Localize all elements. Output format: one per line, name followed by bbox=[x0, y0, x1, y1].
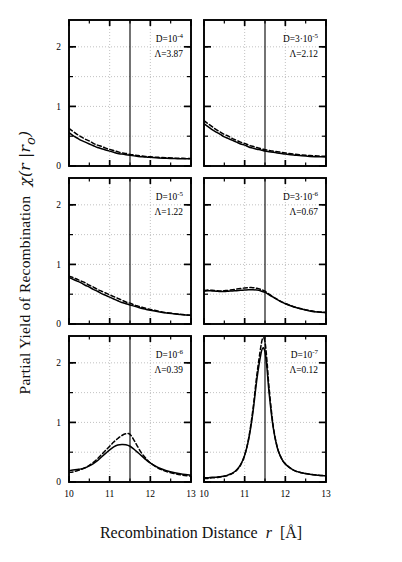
panel-annotation-lambda: Λ=0.67 bbox=[290, 207, 319, 217]
y-axis-label-symbol: χ(r |ro) bbox=[16, 131, 34, 192]
panel-1-0: 012D=10-5Λ=1.22 bbox=[56, 178, 191, 329]
x-tick-label: 12 bbox=[281, 489, 291, 499]
panel-annotation-D: D=10-5 bbox=[156, 190, 184, 202]
y-tick-label: 2 bbox=[56, 358, 61, 368]
x-axis-label-var: r bbox=[266, 524, 272, 541]
y-axis-label: Partial Yield of Recombination χ(r |ro) bbox=[16, 53, 37, 473]
y-tick-label: 2 bbox=[56, 200, 61, 210]
panel-2-0: 01210111213D=10-6Λ=0.39 bbox=[56, 336, 196, 499]
panel-annotation-lambda: Λ=3.87 bbox=[155, 49, 184, 59]
panel-1-1: D=3·10-6Λ=0.67 bbox=[204, 178, 326, 324]
x-tick-label: 13 bbox=[321, 489, 331, 499]
y-tick-label: 1 bbox=[56, 260, 61, 270]
x-tick-label: 10 bbox=[64, 489, 74, 499]
panel-annotation-lambda: Λ=0.12 bbox=[290, 365, 319, 375]
x-tick-label: 11 bbox=[105, 489, 114, 499]
panel-0-1: D=3·10-5Λ=2.12 bbox=[204, 20, 326, 166]
x-axis-label-text: Recombination Distance bbox=[100, 524, 258, 541]
y-tick-label: 0 bbox=[56, 161, 61, 171]
y-tick-label: 0 bbox=[56, 477, 61, 487]
panel-0-0: 012D=10-4Λ=3.87 bbox=[56, 20, 191, 171]
x-axis-label-unit: [Å] bbox=[280, 524, 302, 541]
panel-annotation-D: D=3·10-6 bbox=[283, 190, 319, 202]
panel-annotation-D: D=10-7 bbox=[291, 348, 319, 360]
x-axis-label: Recombination Distance r [Å] bbox=[0, 524, 402, 542]
x-tick-label: 10 bbox=[199, 489, 209, 499]
plot-grid: 012D=10-4Λ=3.87D=3·10-5Λ=2.12012D=10-5Λ=… bbox=[0, 0, 402, 562]
panel-annotation-D: D=10-6 bbox=[156, 348, 184, 360]
y-tick-label: 0 bbox=[56, 319, 61, 329]
x-tick-label: 13 bbox=[186, 489, 196, 499]
figure-root: Partial Yield of Recombination χ(r |ro) … bbox=[0, 0, 402, 562]
panel-annotation-lambda: Λ=1.22 bbox=[155, 207, 184, 217]
y-axis-label-text: Partial Yield of Recombination bbox=[16, 196, 33, 395]
y-tick-label: 2 bbox=[56, 42, 61, 52]
x-tick-label: 12 bbox=[146, 489, 156, 499]
panel-2-1: 10111213D=10-7Λ=0.12 bbox=[199, 336, 331, 499]
y-tick-label: 1 bbox=[56, 102, 61, 112]
panel-annotation-lambda: Λ=0.39 bbox=[155, 365, 184, 375]
y-tick-label: 1 bbox=[56, 418, 61, 428]
panel-annotation-D: D=3·10-5 bbox=[283, 32, 319, 44]
panel-annotation-lambda: Λ=2.12 bbox=[290, 49, 319, 59]
x-tick-label: 11 bbox=[240, 489, 249, 499]
panel-annotation-D: D=10-4 bbox=[156, 32, 184, 44]
